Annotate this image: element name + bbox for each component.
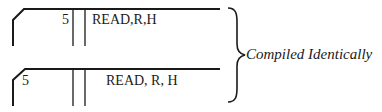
brace-caption: Compiled Identically [246, 47, 372, 61]
bottom-card-label-field: 5 [22, 74, 29, 88]
top-card-field-dividers [73, 9, 85, 46]
top-card-statement-field: READ,R,H [92, 13, 157, 27]
top-card-label-field: 5 [62, 13, 69, 27]
bottom-card-field-dividers [73, 69, 85, 106]
bottom-card-statement-field: READ, R, H [106, 74, 178, 88]
curly-brace-icon [228, 8, 245, 102]
